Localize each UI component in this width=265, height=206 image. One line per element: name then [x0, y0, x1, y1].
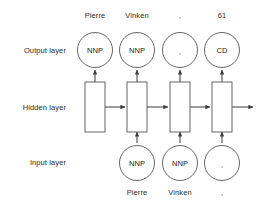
hidden-node-3: [170, 82, 190, 132]
output-node-2-label: NNP: [129, 46, 145, 55]
output-node-1-label: NNP: [87, 46, 103, 55]
rnn-diagram: Output layer Hidden layer Input layer Pi…: [0, 0, 265, 206]
output-node-3: ,: [163, 33, 198, 68]
output-node-1: NNP: [78, 33, 113, 68]
input-node-3-label: ,: [221, 161, 223, 168]
hidden-node-1: [85, 82, 105, 132]
output-node-4-label: CD: [216, 46, 228, 55]
output-node-4: CD: [205, 33, 240, 68]
input-node-1: NNP: [120, 146, 155, 181]
output-node-2: NNP: [120, 33, 155, 68]
input-node-3: ,: [205, 146, 240, 181]
hidden-node-2: [127, 82, 147, 132]
input-node-1-label: NNP: [129, 159, 145, 168]
output-node-3-label: ,: [179, 48, 181, 55]
hidden-node-4: [212, 82, 232, 132]
input-node-2: NNP: [163, 146, 198, 181]
input-node-2-label: NNP: [172, 159, 188, 168]
